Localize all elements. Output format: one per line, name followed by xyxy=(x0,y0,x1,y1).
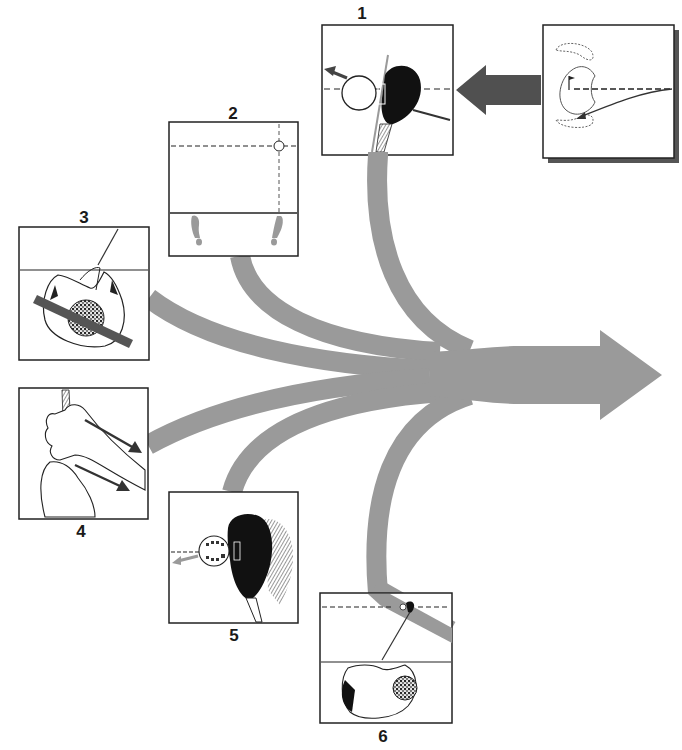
panel-3-number: 3 xyxy=(79,208,88,227)
ball-icon xyxy=(342,76,376,110)
panel-5-number: 5 xyxy=(229,626,238,645)
panel-3 xyxy=(19,227,149,360)
ball-icon xyxy=(400,604,406,610)
flow-stream-1 xyxy=(377,155,470,350)
panel-5 xyxy=(169,492,298,623)
panel-2 xyxy=(169,122,298,256)
panel-2-number: 2 xyxy=(228,104,237,123)
dark-arrow xyxy=(456,65,541,115)
flow-stream-6 xyxy=(376,395,470,593)
panel-4 xyxy=(19,388,148,519)
panel-1 xyxy=(322,25,453,156)
golf-swing-flow-diagram: 1 2 xyxy=(0,0,682,750)
ball-icon xyxy=(274,141,284,151)
diagram-canvas: 1 2 xyxy=(0,0,682,750)
target-panel xyxy=(543,25,679,163)
ball-closeup-icon xyxy=(199,536,229,566)
panel-6 xyxy=(320,593,452,723)
panel-6-number: 6 xyxy=(378,727,387,746)
panel-1-number: 1 xyxy=(357,4,366,23)
head-icon xyxy=(393,676,417,700)
panel-4-number: 4 xyxy=(76,522,86,541)
